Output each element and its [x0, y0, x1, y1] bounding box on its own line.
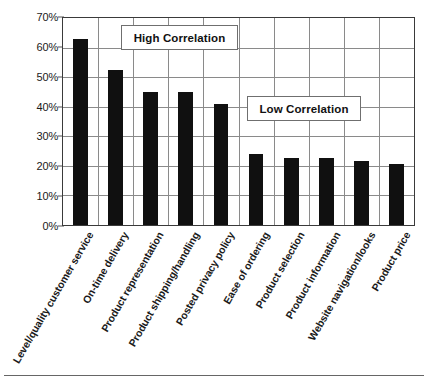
- x-axis-tick-label: Product shipping/handling: [126, 230, 201, 349]
- annotation-high-correlation: High Correlation: [121, 25, 238, 50]
- y-tick-label-20: 20%: [37, 161, 58, 172]
- bars-layer: [63, 18, 414, 225]
- bar: [143, 92, 158, 225]
- bar-chart-figure: 70% 60% 50% 40% 30% 20% 10% 0% High C: [0, 0, 428, 388]
- annotation-low-correlation: Low Correlation: [247, 96, 361, 121]
- y-axis: 70% 60% 50% 40% 30% 20% 10% 0%: [8, 17, 58, 226]
- bar: [108, 70, 123, 225]
- bar: [354, 161, 369, 225]
- bar: [389, 164, 404, 225]
- bar: [73, 39, 88, 225]
- bar: [284, 158, 299, 225]
- y-tick-label-40: 40%: [37, 101, 58, 112]
- x-axis-labels: Level/quality customer serviceOn-time de…: [62, 226, 415, 366]
- bar: [249, 154, 264, 225]
- bar: [214, 104, 229, 225]
- y-tick-label-50: 50%: [37, 71, 58, 82]
- y-tick-label-30: 30%: [37, 131, 58, 142]
- x-axis-tick-label: Product price: [370, 230, 413, 293]
- bar: [178, 92, 193, 225]
- footer-divider: [4, 375, 424, 376]
- y-tick-label-0: 0%: [43, 221, 59, 232]
- x-axis-tick-label: Website navigation/looks: [306, 230, 377, 342]
- plot-area: [62, 17, 415, 226]
- y-tick-label-60: 60%: [37, 41, 58, 52]
- y-tick-label-10: 10%: [37, 191, 58, 202]
- bar: [319, 158, 334, 225]
- y-tick-label-70: 70%: [37, 12, 58, 23]
